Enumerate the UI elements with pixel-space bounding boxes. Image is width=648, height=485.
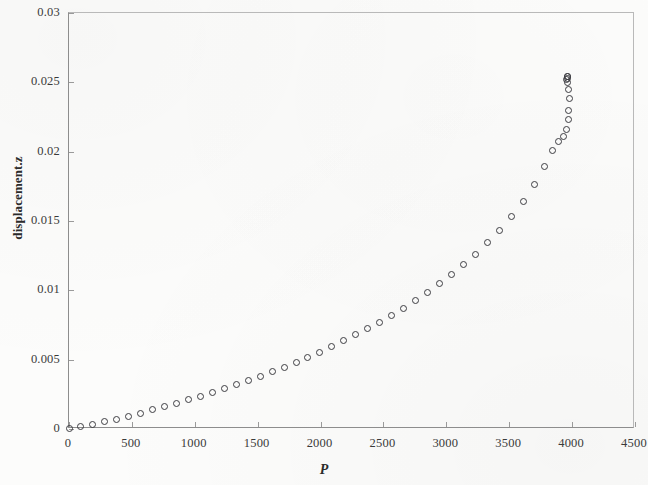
data-point [340,337,347,344]
x-tick-label: 0 [65,436,71,451]
x-axis-title: P [0,462,648,478]
chart-figure: displacement.z 00.0050.010.0150.020.0250… [0,0,648,485]
data-point [281,364,288,371]
data-point [113,416,120,423]
plot-area [68,12,634,428]
x-tick-label: 2000 [307,436,333,451]
data-point [436,280,443,287]
data-point [520,198,527,205]
data-point [565,86,572,93]
y-tick-label: 0.015 [31,213,60,228]
data-point [549,147,556,154]
x-tick-mark [132,422,133,427]
data-point [472,251,479,258]
data-point [316,349,323,356]
data-point [209,389,216,396]
data-point [66,425,73,432]
data-point [424,289,431,296]
x-tick-mark [446,422,447,427]
x-tick-mark [509,422,510,427]
x-tick-label: 2500 [370,436,396,451]
y-axis-tick-labels: 00.0050.010.0150.020.0250.03 [0,12,60,428]
x-tick-label: 3000 [432,436,458,451]
data-point [531,181,538,188]
data-point [448,271,455,278]
data-point [364,325,371,332]
data-point [185,396,192,403]
y-tick-mark [69,13,74,14]
data-point [460,261,467,268]
y-tick-mark [69,152,74,153]
data-point [541,163,548,170]
x-tick-label: 3500 [495,436,521,451]
x-tick-label: 500 [121,436,140,451]
x-tick-label: 1000 [181,436,207,451]
data-point [565,107,572,114]
data-point [484,239,491,246]
x-tick-label: 4500 [621,436,647,451]
data-point [328,343,335,350]
data-point [161,403,168,410]
data-point [293,359,300,366]
y-tick-label: 0.02 [37,143,60,158]
data-point [560,133,567,140]
data-point [352,331,359,338]
y-tick-label: 0 [54,421,60,436]
data-point [149,406,156,413]
data-point [257,373,264,380]
x-axis-tick-labels: 050010001500200025003000350040004500 [68,436,634,456]
data-point [137,410,144,417]
data-point [197,393,204,400]
data-point [304,354,311,361]
data-point [125,413,132,420]
data-point [101,418,108,425]
x-tick-mark [195,422,196,427]
data-point [89,421,96,428]
x-tick-mark [572,422,573,427]
data-point [376,319,383,326]
data-point [565,116,572,123]
data-point [173,400,180,407]
x-tick-mark [258,422,259,427]
data-point [400,305,407,312]
x-tick-label: 1500 [244,436,270,451]
data-point [412,297,419,304]
data-point [221,385,228,392]
y-tick-mark [69,82,74,83]
y-tick-label: 0.01 [37,282,60,297]
data-point [566,95,573,102]
y-tick-mark [69,360,74,361]
data-point [77,423,84,430]
y-tick-label: 0.005 [31,351,60,366]
y-tick-mark [69,221,74,222]
data-point [269,368,276,375]
x-tick-label: 4000 [558,436,584,451]
data-point [564,73,571,80]
x-tick-mark [383,422,384,427]
x-tick-mark [321,422,322,427]
data-point [508,213,515,220]
y-tick-label: 0.025 [31,74,60,89]
y-tick-mark [69,290,74,291]
x-tick-mark [635,422,636,427]
data-point [245,377,252,384]
data-point [563,126,570,133]
y-tick-label: 0.03 [37,5,60,20]
data-point [233,381,240,388]
data-point [496,227,503,234]
data-point [388,312,395,319]
